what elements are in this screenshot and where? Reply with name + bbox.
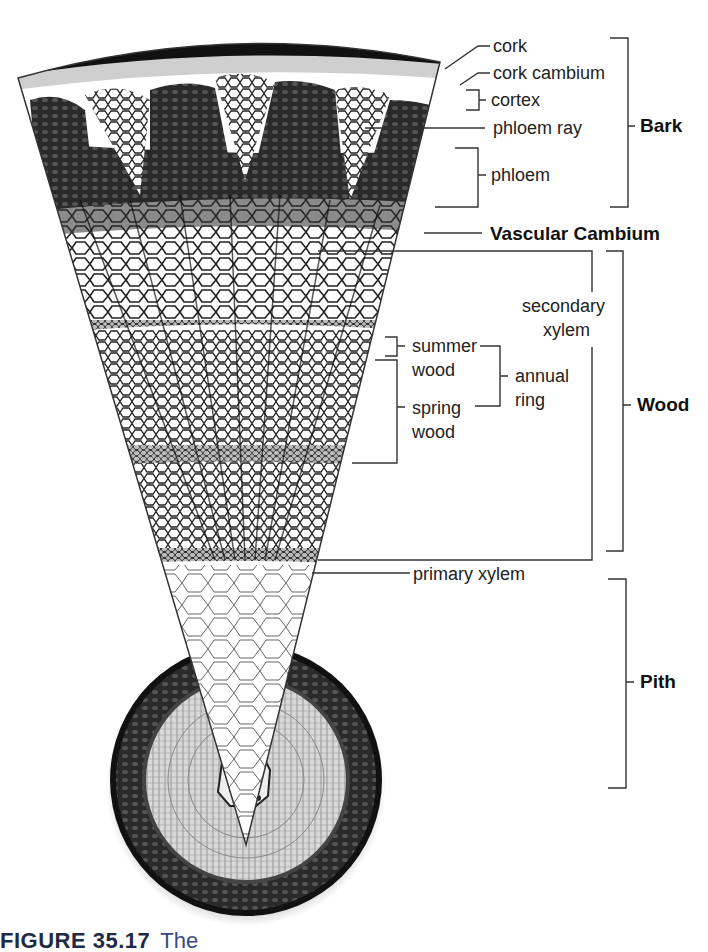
label-spring-wood-line2: wood bbox=[412, 422, 455, 442]
label-cortex: cortex bbox=[491, 90, 540, 110]
label-phloem-ray: phloem ray bbox=[493, 118, 582, 138]
figure-caption: FIGURE 35.17The bbox=[0, 928, 198, 952]
figure-caption-text: The bbox=[160, 928, 198, 952]
label-primary-xylem: primary xylem bbox=[413, 564, 525, 584]
wedge-enlargement bbox=[0, 0, 460, 865]
label-secondary-xylem-line2: xylem bbox=[543, 320, 590, 340]
label-cork: cork bbox=[493, 36, 527, 56]
group-label-pith: Pith bbox=[640, 671, 676, 693]
label-annual-ring-line1: annual bbox=[515, 366, 569, 386]
label-annual-ring-line2: ring bbox=[515, 390, 545, 410]
label-secondary-xylem-line1: secondary bbox=[522, 296, 605, 316]
label-summer-wood-line2: wood bbox=[412, 360, 455, 380]
label-summer-wood-line1: summer bbox=[412, 336, 477, 356]
group-label-bark: Bark bbox=[640, 115, 682, 137]
label-spring-wood-line1: spring bbox=[412, 398, 461, 418]
label-cork-cambium: cork cambium bbox=[493, 63, 605, 83]
label-phloem: phloem bbox=[491, 165, 550, 185]
label-vascular-cambium: Vascular Cambium bbox=[490, 223, 660, 245]
group-label-wood: Wood bbox=[637, 394, 689, 416]
figure-number: FIGURE 35.17 bbox=[0, 928, 150, 952]
